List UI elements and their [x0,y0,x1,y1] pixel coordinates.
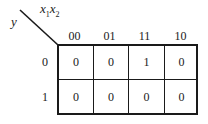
row-variable-label: y [11,14,17,30]
column-header-00: 00 [57,29,92,44]
column-header-11: 11 [127,29,162,44]
cell-y1-x01: 0 [94,90,128,105]
cell-y0-x11: 1 [129,55,164,70]
cell-y0-x01: 0 [94,55,128,70]
column-header-10: 10 [163,29,198,44]
column-variables-label: x1x2 [40,1,60,19]
row-header-1: 1 [38,90,52,105]
cell-y1-x11: 0 [129,90,164,105]
cell-y0-x10: 0 [165,55,198,70]
grid-divider [59,79,196,80]
cell-y1-x00: 0 [59,90,93,105]
cell-y0-x00: 0 [59,55,93,70]
row-header-0: 0 [38,55,52,70]
cell-y1-x10: 0 [165,90,198,105]
column-header-01: 01 [92,29,127,44]
kmap-grid: 0 0 1 0 0 0 0 0 [57,44,198,115]
